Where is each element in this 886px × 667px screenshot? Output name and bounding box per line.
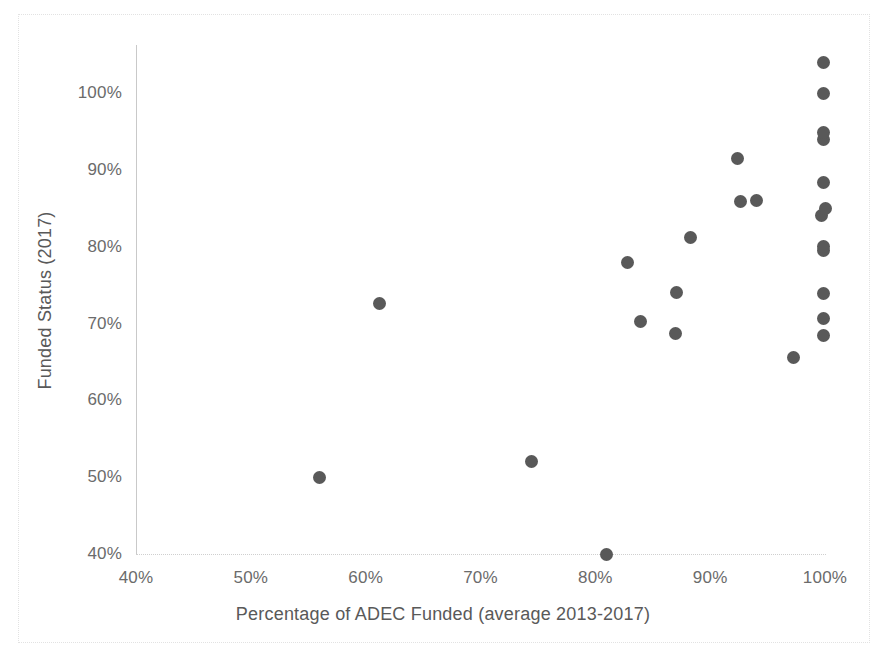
x-axis-line: [136, 554, 826, 555]
data-point: [750, 194, 763, 207]
plot-area: [136, 45, 825, 554]
data-point: [817, 329, 830, 342]
data-point: [819, 202, 832, 215]
data-point: [525, 455, 538, 468]
data-point: [684, 231, 697, 244]
y-axis-tick-80: 80%: [60, 237, 122, 257]
data-point: [621, 256, 634, 269]
x-axis-tick-80: 80%: [578, 568, 613, 588]
x-axis-tick-60: 60%: [348, 568, 383, 588]
x-axis-tick-70: 70%: [463, 568, 498, 588]
x-axis-tick-40: 40%: [119, 568, 154, 588]
data-point: [817, 56, 830, 69]
y-axis-tick-70: 70%: [60, 314, 122, 334]
y-axis-tick-60: 60%: [60, 390, 122, 410]
data-point: [817, 312, 830, 325]
x-axis-title: Percentage of ADEC Funded (average 2013-…: [0, 604, 886, 625]
y-axis-tick-50: 50%: [60, 467, 122, 487]
data-point: [817, 176, 830, 189]
data-point: [734, 195, 747, 208]
y-axis-tick-40: 40%: [60, 544, 122, 564]
x-axis-tick-50: 50%: [234, 568, 269, 588]
data-point: [817, 87, 830, 100]
data-point: [731, 152, 744, 165]
x-axis-tick-90: 90%: [693, 568, 728, 588]
data-point: [373, 297, 386, 310]
y-axis-tick-100: 100%: [60, 83, 122, 103]
data-point: [817, 287, 830, 300]
data-point: [600, 548, 613, 561]
y-axis-tick-90: 90%: [60, 160, 122, 180]
scatter-chart: 40%50%60%70%80%90%100% 40%50%60%70%80%90…: [0, 0, 886, 667]
y-axis-title: Funded Status (2017): [35, 151, 56, 451]
x-axis-tick-100: 100%: [803, 568, 847, 588]
